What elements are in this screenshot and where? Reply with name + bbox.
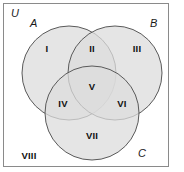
region-label-vii: VII [86, 131, 98, 141]
venn-diagram-figure: U A B C I II III IV V VI VII VIII [0, 0, 184, 172]
region-label-ii: II [89, 44, 95, 54]
set-label-a: A [30, 18, 37, 29]
region-label-vi: VI [117, 99, 126, 109]
region-label-i: I [46, 44, 49, 54]
region-label-viii: VIII [21, 151, 36, 161]
region-label-iv: IV [58, 99, 67, 109]
universe-label: U [11, 8, 19, 19]
set-label-c: C [138, 148, 146, 159]
region-label-iii: III [133, 44, 142, 54]
region-label-v: V [89, 82, 96, 92]
set-circle-C [45, 66, 139, 160]
set-label-b: B [150, 18, 157, 29]
